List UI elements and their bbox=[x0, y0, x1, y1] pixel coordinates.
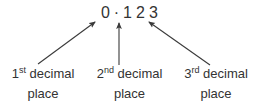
decimal-places-diagram: 0·123 1st decimal place 2nd decimal plac… bbox=[0, 0, 259, 111]
decimal-separator: · bbox=[112, 2, 121, 24]
label-third-line1: 3rd decimal bbox=[173, 64, 259, 84]
label-first-line1: 1st decimal bbox=[0, 64, 86, 84]
label-third-line2: place bbox=[173, 84, 259, 104]
second-decimal-digit: 2 bbox=[134, 2, 147, 24]
label-third-word: decimal bbox=[203, 66, 248, 81]
arrow-to-third-decimal bbox=[149, 22, 210, 65]
third-decimal-digit: 3 bbox=[147, 2, 160, 24]
label-second-ordinal-suffix: nd bbox=[104, 65, 114, 75]
label-first-decimal-place: 1st decimal place bbox=[0, 64, 86, 104]
arrow-to-first-decimal bbox=[38, 22, 95, 64]
decimal-number-row: 0·123 bbox=[0, 2, 259, 24]
label-first-ordinal-suffix: st bbox=[19, 65, 26, 75]
label-third-ordinal-suffix: rd bbox=[191, 65, 199, 75]
label-first-ordinal-number: 1 bbox=[12, 66, 19, 81]
decimal-place-labels: 1st decimal place 2nd decimal place 3rd … bbox=[0, 64, 259, 111]
label-second-line1: 2nd decimal bbox=[87, 64, 173, 84]
label-second-decimal-place: 2nd decimal place bbox=[87, 64, 173, 104]
label-third-decimal-place: 3rd decimal place bbox=[173, 64, 259, 104]
label-second-ordinal-number: 2 bbox=[97, 66, 104, 81]
first-decimal-digit: 1 bbox=[121, 2, 134, 24]
label-first-word: decimal bbox=[30, 66, 75, 81]
label-second-line2: place bbox=[87, 84, 173, 104]
label-first-line2: place bbox=[0, 84, 86, 104]
label-second-word: decimal bbox=[118, 66, 163, 81]
whole-part-digit: 0 bbox=[99, 2, 112, 24]
